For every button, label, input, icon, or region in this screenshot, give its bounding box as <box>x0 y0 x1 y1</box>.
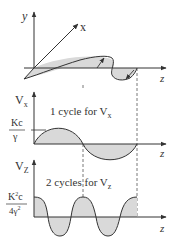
diagram-canvas: y x z Vx 1 cycle for Vx Kc γ z VZ 2 <box>0 0 176 244</box>
vz-amplitude-numerator: K2c <box>8 191 23 202</box>
vx-amplitude-numerator: Kc <box>11 117 23 128</box>
x-axis-label: x <box>80 20 86 34</box>
z-axis-label-top: z <box>159 72 165 84</box>
panel-3d-wave: y x z <box>21 9 166 84</box>
y-axis-label: y <box>21 9 28 23</box>
vx-z-axis-label: z <box>159 147 165 159</box>
vx-annotation: 1 cycle for Vx <box>50 105 112 120</box>
panel-vz: VZ 2 cycles for Vz K2c 4γ2 z <box>6 159 166 236</box>
vx-amplitude-denominator: γ <box>12 131 18 142</box>
vz-annotation: 2 cycles for Vz <box>46 176 112 191</box>
vz-z-axis-label: z <box>159 222 165 234</box>
vx-axis-label: Vx <box>15 93 28 109</box>
panel-vx: Vx 1 cycle for Vx Kc γ z <box>9 92 166 160</box>
vz-amplitude-denominator: 4γ2 <box>9 205 20 216</box>
vz-axis-label: VZ <box>15 159 29 175</box>
